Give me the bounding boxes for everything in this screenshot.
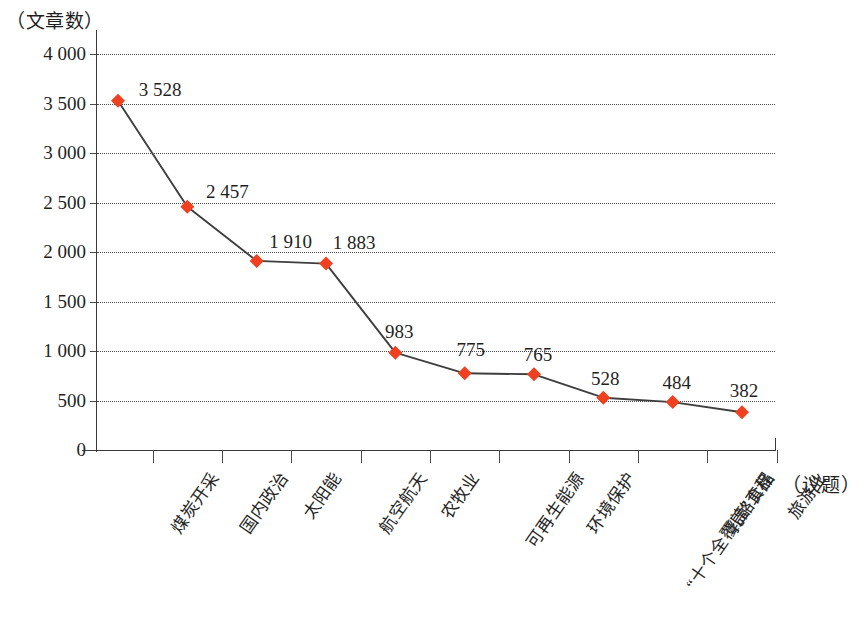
data-value-label: 1 883	[333, 232, 376, 254]
x-axis-tick-mark	[430, 450, 431, 463]
gridline	[97, 302, 775, 303]
x-axis-tick-mark	[361, 450, 362, 463]
data-value-label: 775	[456, 339, 485, 361]
data-value-label: 2 457	[206, 181, 249, 203]
gridline	[97, 104, 775, 105]
x-axis-category-label: 可再生能源	[518, 466, 589, 552]
data-point-marker	[735, 405, 749, 419]
y-axis-tick-label: 4 000	[2, 43, 86, 65]
data-point-marker	[319, 257, 333, 271]
data-value-label: 765	[524, 344, 553, 366]
data-value-label: 1 910	[269, 231, 312, 253]
data-value-label: 3 528	[139, 79, 182, 101]
x-axis-category-label: 环境保护	[580, 466, 641, 538]
data-point-marker	[666, 395, 680, 409]
data-value-label: 528	[591, 368, 620, 390]
x-axis-category-label: 航空航天	[372, 466, 433, 538]
y-axis-tick-label: 3 500	[2, 93, 86, 115]
y-axis-tick-labels: 05001 0001 5002 0002 5003 0003 5004 000	[0, 0, 86, 620]
y-axis-line	[96, 30, 97, 452]
y-axis-tick-label: 2 000	[2, 241, 86, 263]
y-axis-tick-label: 3 000	[2, 142, 86, 164]
data-point-marker	[527, 367, 541, 381]
x-axis-tick-mark	[222, 450, 223, 463]
gridline	[97, 203, 775, 204]
data-point-marker	[596, 391, 610, 405]
data-point-marker	[458, 366, 472, 380]
series-polyline	[118, 101, 742, 413]
x-axis-end-tick	[775, 438, 776, 450]
x-axis-tick-mark	[499, 450, 500, 463]
gridline	[97, 54, 775, 55]
x-axis-tick-mark	[777, 450, 778, 463]
data-point-marker	[111, 94, 125, 108]
data-point-marker	[388, 346, 402, 360]
x-axis-line	[82, 450, 776, 451]
data-value-label: 382	[730, 380, 759, 402]
x-axis-category-label: 国内政治	[233, 466, 294, 538]
x-axis-category-label: 煤炭开采	[164, 466, 225, 538]
x-axis-tick-mark	[291, 450, 292, 463]
series-marker-group	[111, 94, 749, 419]
x-axis-category-label: 农牧业	[434, 466, 485, 523]
y-axis-tick-label: 2 500	[2, 192, 86, 214]
x-axis-tick-mark	[638, 450, 639, 463]
data-value-label: 983	[385, 321, 414, 343]
gridline	[97, 401, 775, 402]
y-axis-tick-label: 0	[2, 439, 86, 461]
x-axis-tick-mark	[569, 450, 570, 463]
gridline	[97, 252, 775, 253]
gridline	[97, 351, 775, 352]
data-point-marker	[250, 254, 264, 268]
x-axis-tick-mark	[153, 450, 154, 463]
x-axis-tick-mark	[707, 450, 708, 463]
gridline	[97, 153, 775, 154]
y-axis-tick-label: 1 500	[2, 291, 86, 313]
x-axis-category-label: 太阳能	[295, 466, 346, 523]
y-axis-tick-label: 1 000	[2, 340, 86, 362]
y-axis-tick-label: 500	[2, 390, 86, 412]
data-value-label: 484	[662, 372, 691, 394]
line-chart-figure: （文章数） （议题） 05001 0001 5002 0002 5003 000…	[0, 0, 859, 620]
